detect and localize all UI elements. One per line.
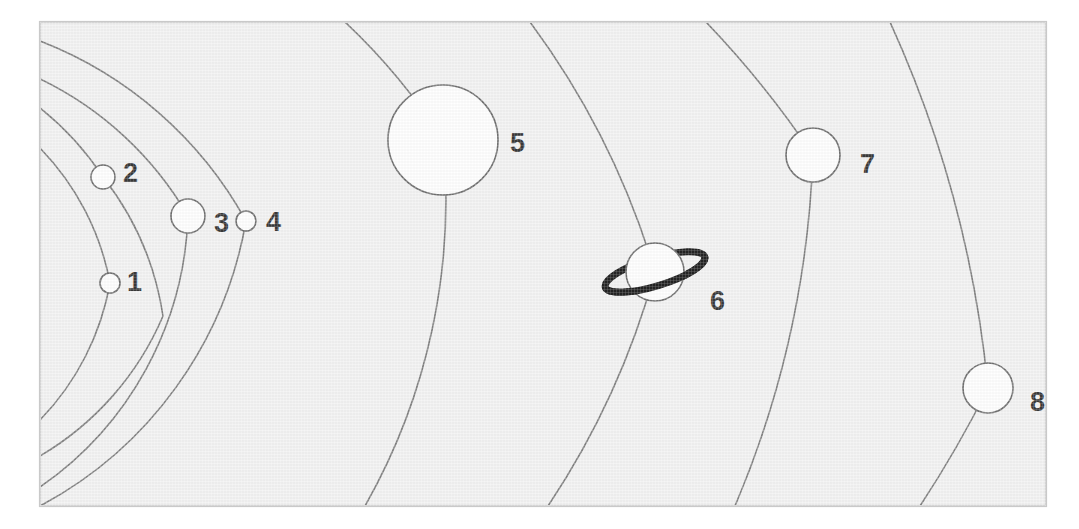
planet-body-2[interactable] (91, 165, 115, 189)
planet-label-6: 6 (710, 286, 725, 316)
planet-body-7[interactable] (786, 128, 840, 182)
planet-label-5: 5 (510, 128, 525, 158)
planet-body-3[interactable] (171, 199, 205, 233)
planet-body-1[interactable] (100, 273, 120, 293)
planet-label-1: 1 (127, 267, 142, 297)
planet-body-4[interactable] (236, 211, 256, 231)
diagram-frame (40, 22, 1046, 506)
planet-body-5[interactable] (388, 85, 498, 195)
solar-system-figure: 12345678 (0, 0, 1079, 529)
planet-label-7: 7 (860, 149, 875, 179)
planet-label-3: 3 (214, 208, 229, 238)
planet-label-8: 8 (1030, 387, 1045, 417)
solar-system-canvas: 12345678 (0, 0, 1079, 529)
planet-label-4: 4 (266, 207, 281, 237)
planet-body-8[interactable] (963, 363, 1013, 413)
planet-label-2: 2 (123, 158, 138, 188)
